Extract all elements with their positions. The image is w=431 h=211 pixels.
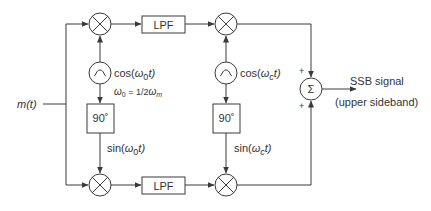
- osc2-sin-label: sin(ωct): [234, 142, 272, 157]
- ssb-modulator-diagram: m(t) LPF cos(ω0t) ω0 = 1/2ωm 90˚ sin(ω0t…: [0, 0, 431, 211]
- top-lpf-label: LPF: [153, 19, 173, 31]
- bottom-mixer-1-icon: [89, 174, 111, 196]
- bottom-mixer-2-icon: [215, 174, 237, 196]
- bottom-lpf-label: LPF: [153, 180, 173, 192]
- summer-top-sign: +: [299, 66, 304, 76]
- phase-shift-2-label: 90˚: [219, 112, 235, 124]
- osc1-sin-label: sin(ω0t): [107, 142, 145, 157]
- top-mixer-1-icon: [89, 13, 111, 35]
- output-label-line1: SSB signal: [350, 75, 404, 87]
- oscillator-1-icon: [89, 62, 111, 84]
- osc1-freq-relation-label: ω0 = 1/2ωm: [114, 86, 162, 98]
- top-mixer-2-icon: [215, 13, 237, 35]
- summer-icon: Σ: [300, 78, 322, 100]
- output-label-line2: (upper sideband): [335, 96, 418, 108]
- oscillator-2-icon: [215, 62, 237, 84]
- input-label: m(t): [17, 98, 37, 110]
- osc2-cos-label: cos(ωct): [240, 67, 281, 82]
- osc1-cos-label: cos(ω0t): [114, 67, 155, 82]
- svg-text:Σ: Σ: [308, 83, 315, 95]
- summer-bottom-sign: +: [299, 101, 304, 111]
- phase-shift-1-label: 90˚: [93, 112, 109, 124]
